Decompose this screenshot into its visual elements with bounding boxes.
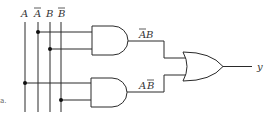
input-buses [25, 22, 61, 112]
label-abar-b: A B [138, 29, 153, 40]
junction-dot [59, 98, 63, 102]
input-label-b-bar: B [57, 8, 65, 19]
logic-circuit-diagram: A A B B A B A B y a. [0, 0, 273, 117]
svg-text:B: B [146, 80, 154, 91]
svg-text:B: B [145, 29, 153, 40]
input-labels: A A B B [20, 8, 65, 19]
junction-dot [23, 81, 27, 85]
and-gate-lower [91, 78, 127, 107]
junction-dot [36, 30, 40, 34]
svg-text:A: A [138, 80, 146, 91]
input-label-b: B [45, 8, 53, 19]
figure-label-fragment: a. [0, 97, 7, 105]
junction-dot [48, 47, 52, 51]
wire-upper-and-output [128, 41, 188, 58]
label-a-bbar: A B [138, 80, 154, 91]
or-gate [183, 52, 223, 81]
input-label-a: A [20, 8, 28, 19]
wire-lower-and-output [127, 75, 188, 92]
input-label-a-bar: A [33, 8, 41, 19]
output-label-y: y [256, 61, 263, 72]
and-gate-upper [92, 26, 128, 55]
svg-text:A: A [138, 29, 146, 40]
